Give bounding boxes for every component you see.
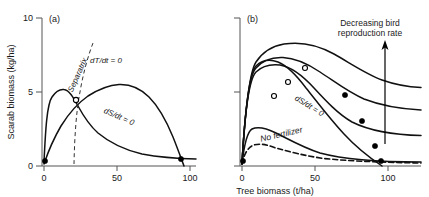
panel-b-label: (b): [247, 14, 258, 24]
panel-a-xtick-label-100: 100: [182, 173, 197, 183]
x-axis-title: Tree biomass (t/ha): [236, 186, 314, 196]
y-axis-title: Scarab biomass (kg/ha): [6, 44, 16, 139]
panel-a-xtick-label-50: 50: [112, 173, 122, 183]
panel-b-xtick-label-0: 0: [239, 173, 244, 183]
panel-b-equilibrium-unstable-3: [303, 66, 308, 71]
phase-plane-figure: 10 5 0 0 50 100 (a) Separatrix dT/dt = 0: [0, 0, 429, 197]
panel-b-annotation-line2: reproduction rate: [338, 28, 403, 38]
panel-b-equilibrium-stable-3: [372, 143, 377, 148]
panel-b-equilibrium-stable-4: [378, 158, 383, 163]
panel-b-annotation-line1: Decreasing bird: [340, 18, 400, 28]
panel-a: 10 5 0 0 50 100 (a) Separatrix dT/dt = 0: [23, 13, 198, 183]
panel-b-equilibrium-stable-1: [342, 92, 347, 97]
panel-a-equilibrium-saddle: [73, 97, 78, 102]
panel-a-equilibrium-high-tree: [178, 156, 183, 161]
panel-b-no-fertilizer-label: No fertilizer: [259, 124, 304, 144]
panel-a-curve-ds-dt: [44, 89, 196, 162]
panel-a-ytick-label-0: 0: [28, 161, 33, 171]
panel-a-dsdt-label: dS/dt = 0: [102, 106, 136, 128]
panel-a-curve-dt-dt: [44, 84, 184, 166]
panel-b: 0 50 100 (b) dS/dt = 0 No fertilizer Dec…: [234, 14, 421, 183]
panel-b-equilibrium-stable-2: [359, 118, 364, 123]
figure-container: 10 5 0 0 50 100 (a) Separatrix dT/dt = 0: [0, 0, 429, 197]
decreasing-bird-reproduction-arrow-icon: [382, 40, 389, 144]
panel-b-equilibrium-unstable-2: [286, 80, 291, 85]
panel-a-ytick-label-10: 10: [23, 13, 33, 23]
panel-b-xtick-label-100: 100: [380, 173, 395, 183]
panel-b-equilibrium-unstable-1: [272, 94, 277, 99]
panel-a-label: (a): [49, 14, 60, 24]
panel-a-equilibrium-origin: [42, 158, 47, 163]
panel-b-equilibrium-origin: [240, 158, 245, 163]
panel-a-ytick-label-5: 5: [28, 87, 33, 97]
panel-b-xtick-label-50: 50: [310, 173, 320, 183]
panel-a-xtick-label-0: 0: [41, 173, 46, 183]
panel-a-dtdt-label: dT/dt = 0: [90, 56, 122, 65]
panel-b-curve-tree-nullcline-3: [242, 57, 421, 164]
panel-b-curve-tree-nullcline-4: [242, 43, 421, 164]
panel-a-separatrix-label: Separatrix: [66, 56, 89, 94]
